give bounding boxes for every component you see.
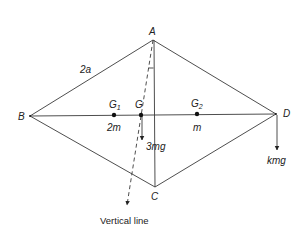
diagonal-BD [30,114,276,116]
side-BC [30,116,155,187]
label-A: A [148,26,156,37]
side-AD [153,40,276,114]
label-mass-m: m [193,122,201,133]
point-G [139,113,143,117]
label-force-kmg: kmg [267,155,286,166]
vertical-line-dashed [127,40,153,205]
label-B: B [18,111,25,122]
label-G: G [135,99,143,110]
label-vertical-line: Vertical line [100,215,149,226]
label-D: D [283,108,290,119]
label-side-2a: 2a [79,64,92,75]
point-B [29,115,31,117]
label-force-3mg: 3mg [146,141,166,152]
point-D [275,113,277,115]
label-mass-2m: 2m [106,122,121,133]
point-G2 [195,112,199,116]
label-G1: G1 [109,99,121,111]
rhombus-diagram: A B C D G1 G G2 2a 2m m 3mg kmg Vertical… [0,0,305,232]
label-G2: G2 [191,98,203,110]
point-G1 [112,113,116,117]
side-CD [155,114,276,187]
diagonal-AC [154,40,155,187]
label-C: C [151,191,159,202]
